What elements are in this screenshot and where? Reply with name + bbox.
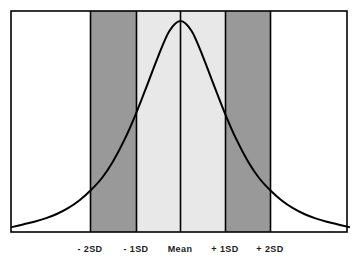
axis-label-minus-1sd: - 1SD xyxy=(123,244,148,255)
band-mean-to-plus-1sd xyxy=(180,11,225,232)
axis-label-minus-2sd: - 2SD xyxy=(77,244,102,255)
band-minus-1sd-to-mean xyxy=(136,11,180,232)
band-minus-2sd-to-minus-1sd xyxy=(90,11,136,232)
band-above-plus-2sd xyxy=(270,11,347,232)
normal-distribution-chart: - 2SD - 1SD Mean + 1SD + 2SD xyxy=(0,0,357,266)
axis-label-plus-1sd: + 1SD xyxy=(211,244,238,255)
chart-canvas xyxy=(0,0,357,266)
band-plus-1sd-to-plus-2sd xyxy=(225,11,270,232)
axis-label-mean: Mean xyxy=(168,244,193,255)
band-below-minus-2sd xyxy=(11,11,90,232)
axis-label-plus-2sd: + 2SD xyxy=(256,244,283,255)
sd-band-group xyxy=(11,11,347,232)
